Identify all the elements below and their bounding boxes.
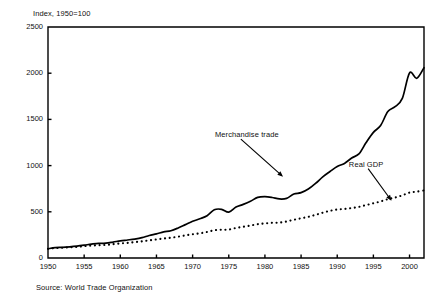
x-tick-label: 1990 (320, 263, 354, 271)
x-tick-label: 1970 (176, 263, 210, 271)
x-tick-label: 1980 (248, 263, 282, 271)
chart-plot-area (0, 0, 440, 305)
y-tick-label: 1500 (15, 115, 43, 123)
x-tick-label: 1965 (139, 263, 173, 271)
x-tick-label: 1985 (284, 263, 318, 271)
y-tick-label: 1000 (15, 162, 43, 170)
x-tick-label: 1960 (103, 263, 137, 271)
x-tick-label: 1955 (67, 263, 101, 271)
annotation-label: Real GDP (349, 160, 384, 169)
y-tick-label: 0 (15, 254, 43, 262)
y-tick-label: 2500 (15, 23, 43, 31)
annotation-label: Merchandise trade (215, 130, 279, 139)
series-merchandise-trade (48, 68, 424, 249)
x-tick-label: 1975 (212, 263, 246, 271)
source-note: Source: World Trade Organization (36, 283, 152, 292)
x-tick-label: 1995 (356, 263, 390, 271)
y-tick-label: 2000 (15, 69, 43, 77)
x-tick-label: 2000 (393, 263, 427, 271)
x-tick-label: 1950 (31, 263, 65, 271)
y-tick-label: 500 (15, 208, 43, 216)
chart-figure: Index, 1950=100 05001000150020002500 195… (0, 0, 440, 305)
series-real-gdp (48, 190, 424, 248)
